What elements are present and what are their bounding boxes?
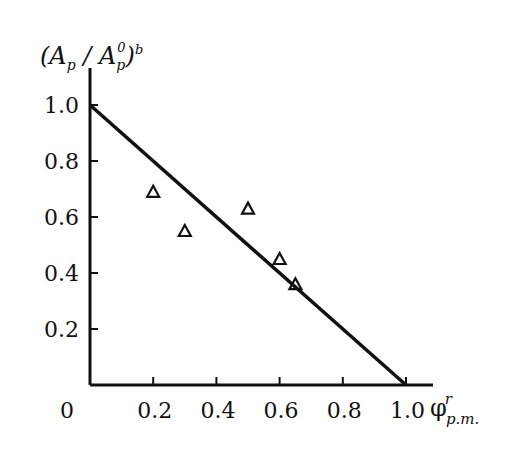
- origin-label: 0: [60, 398, 74, 423]
- plot-svg: (Ap / Ap0)b 0.20.40.60.81.0 0.20.40.60.8…: [0, 0, 525, 453]
- y-tick-label: 0.8: [44, 149, 79, 174]
- y-tick-label: 0.2: [44, 317, 79, 342]
- x-tick-label: 0.2: [137, 398, 172, 423]
- triangle-marker: [242, 203, 254, 214]
- x-axis-label: φrp.m.: [430, 390, 479, 428]
- x-tick-label: 0.4: [200, 398, 235, 423]
- x-tick-label: 1.0: [390, 398, 425, 423]
- x-tick-label: 0.8: [327, 398, 362, 423]
- y-tick-label: 1.0: [44, 93, 79, 118]
- triangle-marker: [274, 253, 286, 264]
- triangle-marker: [147, 186, 159, 197]
- y-tick-label: 0.6: [44, 205, 79, 230]
- y-tick-label: 0.4: [44, 261, 79, 286]
- data-series: [90, 105, 406, 385]
- triangle-marker: [179, 225, 191, 236]
- chart: (Ap / Ap0)b 0.20.40.60.81.0 0.20.40.60.8…: [0, 0, 525, 453]
- fit-line: [90, 105, 406, 385]
- y-axis-label: (Ap / Ap0)b: [40, 40, 143, 73]
- x-tick-label: 0.6: [264, 398, 299, 423]
